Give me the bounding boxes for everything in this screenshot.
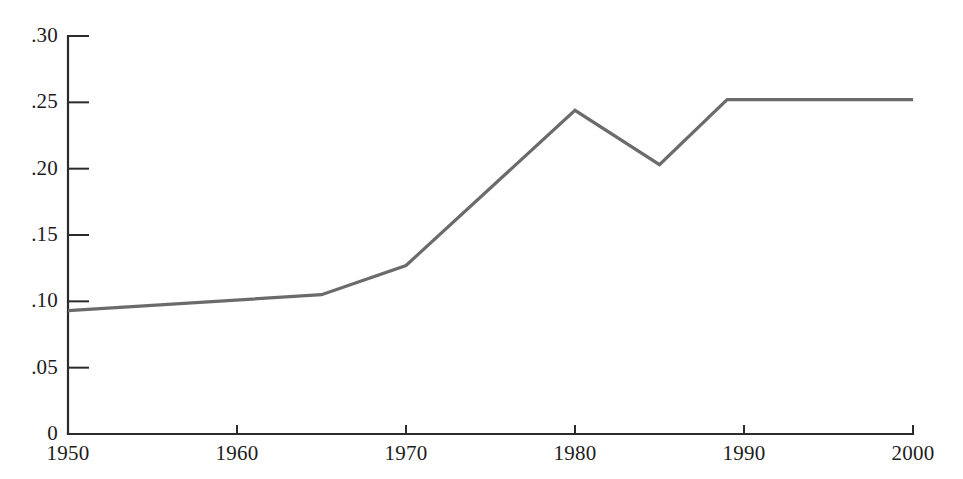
y-tick-label: .05 [0,355,58,380]
y-tick-label: .30 [0,23,58,48]
x-tick-label: 1970 [356,441,456,466]
y-tick-label: .25 [0,89,58,114]
x-tick-label: 1980 [525,441,625,466]
x-tick-label: 1960 [187,441,287,466]
y-tick-label: .15 [0,222,58,247]
y-tick-group [68,36,89,368]
x-tick-label: 2000 [863,441,963,466]
data-series-line [68,100,913,311]
x-tick-label: 1990 [694,441,794,466]
y-tick-label: .10 [0,288,58,313]
x-tick-group [68,425,913,434]
axis-group [68,36,913,434]
chart-container: 0.05.10.15.20.25.30 19501960197019801990… [0,0,963,479]
chart-plot-area [0,0,963,479]
y-tick-label: .20 [0,156,58,181]
x-tick-label: 1950 [18,441,118,466]
